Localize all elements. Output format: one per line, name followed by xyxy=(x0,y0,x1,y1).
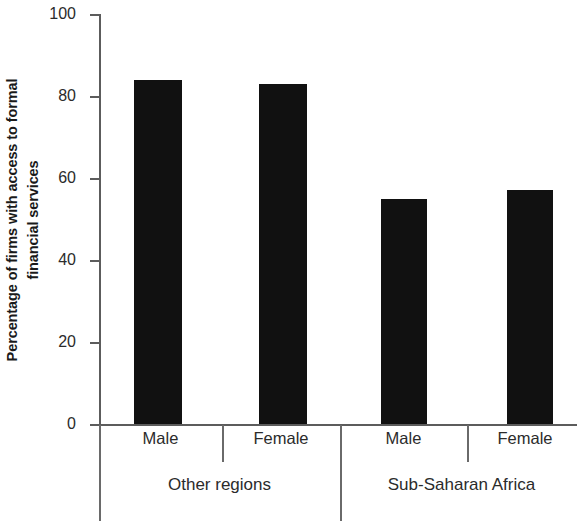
group-label-other-regions: Other regions xyxy=(99,475,340,495)
y-tick-label-20: 20 xyxy=(58,333,76,351)
y-tick-60: 60 xyxy=(90,178,99,180)
category-label-ssa-female: Female xyxy=(467,429,583,448)
y-axis-title-line-1: Percentage of firms with access to forma… xyxy=(2,5,23,435)
category-label-other-regions-female: Female xyxy=(222,429,340,448)
y-tick-label-60: 60 xyxy=(58,169,76,187)
y-tick-label-100: 100 xyxy=(49,5,76,23)
y-axis-line xyxy=(99,14,101,424)
y-tick-label-80: 80 xyxy=(58,87,76,105)
bar-other-regions-female xyxy=(259,84,307,424)
category-axis: Male Female Male Female Other regions Su… xyxy=(0,425,583,521)
bar-sub-saharan-africa-female xyxy=(507,190,553,424)
y-tick-80: 80 xyxy=(90,96,99,98)
bar-chart-figure: Percentage of firms with access to forma… xyxy=(0,0,583,521)
y-tick-100: 100 xyxy=(90,14,99,16)
category-label-ssa-male: Male xyxy=(340,429,467,448)
y-axis-title: Percentage of firms with access to forma… xyxy=(0,0,48,440)
y-tick-label-40: 40 xyxy=(58,251,76,269)
group-label-sub-saharan-africa: Sub-Saharan Africa xyxy=(340,475,583,495)
y-tick-40: 40 xyxy=(90,260,99,262)
bar-other-regions-male xyxy=(134,80,182,424)
bar-sub-saharan-africa-male xyxy=(381,199,427,425)
y-axis-title-line-2: financial services xyxy=(23,5,44,435)
plot-area: 0 20 40 60 80 100 xyxy=(99,14,577,424)
category-label-other-regions-male: Male xyxy=(99,429,222,448)
y-tick-20: 20 xyxy=(90,342,99,344)
